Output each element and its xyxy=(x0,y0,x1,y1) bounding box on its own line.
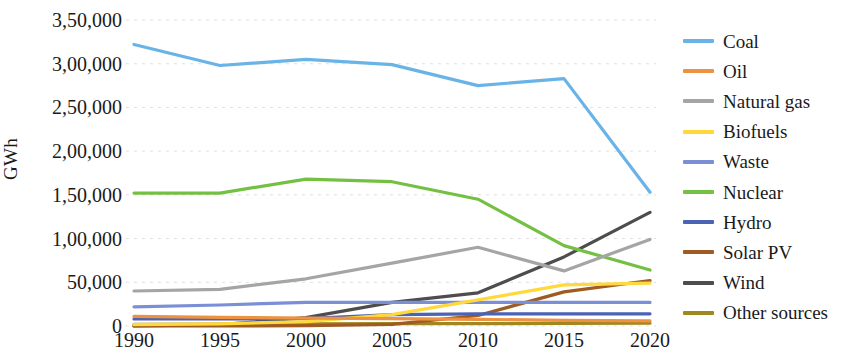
legend-label: Other sources xyxy=(723,303,828,322)
chart-legend: CoalOilNatural gasBiofuelsWasteNuclearHy… xyxy=(683,26,841,328)
legend-label: Biofuels xyxy=(723,122,787,141)
legend-label: Hydro xyxy=(723,213,772,232)
legend-label: Natural gas xyxy=(723,92,810,111)
legend-label: Coal xyxy=(723,32,759,51)
legend-item[interactable]: Other sources xyxy=(683,298,841,328)
legend-label: Solar PV xyxy=(723,243,792,262)
legend-item[interactable]: Coal xyxy=(683,26,841,56)
legend-color-swatch xyxy=(683,250,714,254)
legend-color-swatch xyxy=(683,39,714,43)
legend-color-swatch xyxy=(683,130,714,134)
legend-color-swatch xyxy=(683,160,714,164)
legend-color-swatch xyxy=(683,190,714,194)
legend-item[interactable]: Wind xyxy=(683,268,841,298)
legend-item[interactable]: Nuclear xyxy=(683,177,841,207)
legend-color-swatch xyxy=(683,220,714,224)
legend-color-swatch xyxy=(683,69,714,73)
series-line xyxy=(134,302,650,306)
legend-color-swatch xyxy=(683,99,714,103)
legend-label: Oil xyxy=(723,62,747,81)
legend-item[interactable]: Natural gas xyxy=(683,86,841,116)
legend-item[interactable]: Hydro xyxy=(683,207,841,237)
series-line xyxy=(134,45,650,193)
legend-color-swatch xyxy=(683,281,714,285)
series-line xyxy=(134,179,650,270)
legend-item[interactable]: Oil xyxy=(683,56,841,86)
legend-item[interactable]: Waste xyxy=(683,147,841,177)
legend-color-swatch xyxy=(683,311,714,315)
legend-label: Nuclear xyxy=(723,183,783,202)
legend-label: Waste xyxy=(723,152,769,171)
legend-item[interactable]: Solar PV xyxy=(683,237,841,267)
legend-item[interactable]: Biofuels xyxy=(683,117,841,147)
line-chart-figure: GWh 050,0001,00,0001,50,0002,00,0002,50,… xyxy=(0,0,841,358)
legend-label: Wind xyxy=(723,273,764,292)
